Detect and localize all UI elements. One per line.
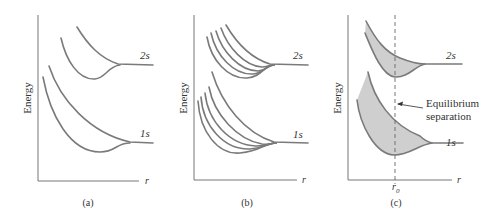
energy-curve-2s-4 <box>211 33 274 74</box>
x-axis-label: r <box>302 174 306 185</box>
level-label-1s: 1s <box>140 127 150 139</box>
annotation-line-1: Equilibrium <box>426 97 480 109</box>
energy-curve-1s-2 <box>209 87 276 144</box>
panel-b: Energy r (b) 2s 1s <box>177 15 308 209</box>
y-axis-label: Energy <box>177 82 189 114</box>
level-label-2s: 2s <box>140 49 150 61</box>
x-axis-label: r <box>457 174 461 185</box>
panel-caption: (a) <box>82 197 93 209</box>
x-tick-r0: r0 <box>392 181 400 195</box>
level-label-2s: 2s <box>293 49 303 61</box>
energy-curve-1s-bonding <box>43 77 130 152</box>
energy-curve-1s-5 <box>198 101 276 153</box>
y-axis-label: Energy <box>331 82 343 114</box>
panel-caption: (b) <box>241 197 253 209</box>
energy-curve-2s-bonding <box>61 38 120 79</box>
panel-c: Equilibrium separation Energy r r0 (c) 2… <box>331 15 482 209</box>
panel-caption: (c) <box>390 197 401 209</box>
y-axis-label: Energy <box>21 82 33 114</box>
energy-curve-2s-2 <box>221 28 274 67</box>
level-label-2s: 2s <box>446 49 456 61</box>
level-label-1s: 1s <box>293 128 303 140</box>
level-label-1s: 1s <box>446 136 456 148</box>
annotation-line-2: separation <box>426 110 472 122</box>
x-axis-label: r <box>145 175 149 186</box>
arrow-head-icon <box>397 102 403 107</box>
panel-a: Energy r (a) 2s 1s <box>21 15 153 209</box>
energy-band-1s <box>357 72 432 155</box>
annotation-text: Equilibrium separation <box>426 97 482 122</box>
